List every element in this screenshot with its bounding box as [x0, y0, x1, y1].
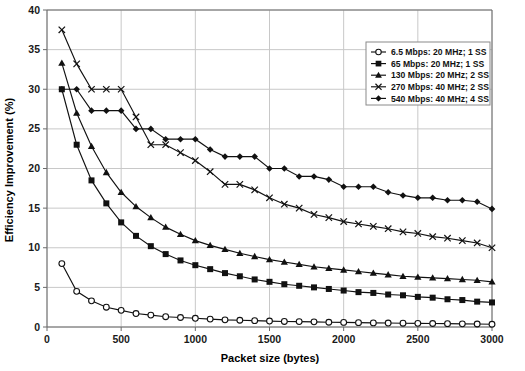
- data-point-open-circle: [59, 261, 65, 267]
- legend-item-label: 540 Mbps: 40 MHz; 4 SS: [391, 94, 489, 104]
- data-point-filled-square: [281, 281, 287, 287]
- data-point-filled-square: [341, 288, 347, 294]
- data-point-filled-square: [400, 292, 406, 298]
- data-point-filled-square: [430, 295, 436, 301]
- data-point-open-circle: [326, 319, 332, 325]
- data-point-filled-square: [489, 299, 495, 305]
- legend-item-label: 270 Mbps: 40 MHz; 2 SS: [391, 82, 489, 92]
- data-point-open-circle: [192, 315, 198, 321]
- legend-item-label: 6.5 Mbps: 20 MHz; 1 SS: [391, 47, 487, 57]
- data-point-filled-square: [459, 297, 465, 303]
- x-tick-label: 2500: [406, 333, 430, 345]
- data-point-filled-square: [207, 266, 213, 272]
- y-tick-label: 25: [28, 122, 40, 134]
- data-point-open-circle: [356, 320, 362, 326]
- data-point-filled-square: [385, 292, 391, 298]
- data-point-filled-square: [192, 262, 198, 268]
- y-tick-label: 40: [28, 4, 40, 16]
- chart-container: 0510152025303540 05001000150020002500300…: [0, 0, 525, 371]
- data-point-open-circle: [474, 321, 480, 327]
- data-point-open-circle: [281, 319, 287, 325]
- data-point-open-circle: [222, 317, 228, 323]
- y-tick-label: 10: [28, 241, 40, 253]
- legend-item-label: 130 Mbps: 20 MHz; 2 SS: [391, 70, 489, 80]
- data-point-filled-square: [376, 61, 382, 67]
- legend-item-label: 65 Mbps: 20 MHz; 1 SS: [391, 59, 484, 69]
- data-point-filled-square: [356, 289, 362, 295]
- data-point-filled-square: [326, 286, 332, 292]
- y-tick-label: 35: [28, 43, 40, 55]
- y-tick-label: 0: [34, 321, 40, 333]
- data-point-filled-square: [296, 283, 302, 289]
- data-point-open-circle: [267, 318, 273, 324]
- data-point-filled-square: [415, 294, 421, 300]
- data-point-filled-square: [118, 219, 124, 225]
- data-point-filled-square: [267, 279, 273, 285]
- data-point-filled-square: [370, 290, 376, 296]
- data-point-open-circle: [445, 321, 451, 327]
- data-point-open-circle: [252, 318, 258, 324]
- data-point-filled-square: [178, 257, 184, 263]
- x-tick-label: 0: [44, 333, 50, 345]
- data-point-filled-square: [103, 200, 109, 206]
- data-point-filled-square: [252, 276, 258, 282]
- x-tick-label: 1500: [258, 333, 282, 345]
- data-point-open-circle: [133, 311, 139, 317]
- data-point-open-circle: [296, 319, 302, 325]
- data-point-open-circle: [118, 307, 124, 313]
- y-tick-label: 30: [28, 83, 40, 95]
- y-tick-label: 15: [28, 202, 40, 214]
- data-point-open-circle: [178, 315, 184, 321]
- data-point-open-circle: [89, 298, 95, 304]
- x-tick-label: 3000: [480, 333, 504, 345]
- data-point-filled-square: [148, 243, 154, 249]
- data-point-open-circle: [103, 304, 109, 310]
- x-tick-label: 1000: [184, 333, 208, 345]
- x-tick-label: 500: [112, 333, 130, 345]
- data-point-filled-square: [89, 177, 95, 183]
- data-point-open-circle: [459, 321, 465, 327]
- data-point-open-circle: [341, 320, 347, 326]
- data-point-open-circle: [430, 321, 436, 327]
- data-point-filled-square: [133, 233, 139, 239]
- data-point-filled-square: [237, 273, 243, 279]
- efficiency-improvement-line-chart: 0510152025303540 05001000150020002500300…: [0, 0, 525, 371]
- data-point-filled-square: [445, 296, 451, 302]
- data-point-open-circle: [376, 49, 382, 55]
- data-point-filled-square: [474, 299, 480, 305]
- data-point-open-circle: [74, 288, 80, 294]
- data-point-open-circle: [385, 320, 391, 326]
- y-axis-title: Efficiency Improvement (%): [3, 98, 15, 243]
- y-tick-label: 5: [34, 281, 40, 293]
- data-point-open-circle: [148, 312, 154, 318]
- data-point-filled-square: [311, 284, 317, 290]
- data-point-open-circle: [370, 320, 376, 326]
- data-point-open-circle: [237, 317, 243, 323]
- data-point-filled-square: [74, 142, 80, 148]
- data-point-open-circle: [489, 321, 495, 327]
- data-point-open-circle: [400, 320, 406, 326]
- data-point-filled-square: [163, 251, 169, 257]
- data-point-filled-square: [222, 270, 228, 276]
- chart-legend: 6.5 Mbps: 20 MHz; 1 SS65 Mbps: 20 MHz; 1…: [366, 42, 490, 105]
- data-point-open-circle: [311, 319, 317, 325]
- x-axis-title: Packet size (bytes): [221, 352, 320, 364]
- data-point-open-circle: [163, 314, 169, 320]
- data-point-open-circle: [415, 320, 421, 326]
- data-point-open-circle: [207, 316, 213, 322]
- y-tick-label: 20: [28, 162, 40, 174]
- x-tick-label: 2000: [332, 333, 356, 345]
